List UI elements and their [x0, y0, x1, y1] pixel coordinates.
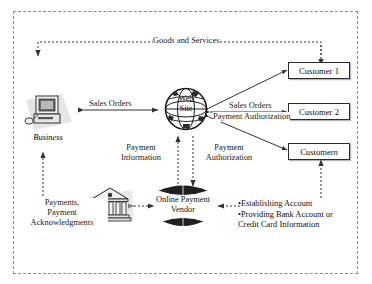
payments-line1: Payments, — [45, 198, 80, 207]
customer-box-1[interactable]: Customer 1 — [288, 62, 350, 79]
account-bullet-2: •Providing Bank Account or — [238, 210, 362, 221]
payment-authorization-line2: Authorization — [206, 153, 253, 162]
website-label-line2: Site — [179, 104, 192, 113]
label-goods-and-services: Goods and Services — [153, 36, 220, 46]
payments-line3: Acknowledgments — [31, 218, 94, 227]
payments-line2: Payment — [47, 208, 76, 217]
label-payment-authorization-customer: Payment Authorization — [213, 112, 290, 122]
opv-label-line1: Online Payment — [156, 195, 210, 204]
business-label: Business — [18, 133, 78, 142]
label-sales-orders-business: Sales Orders — [89, 99, 132, 109]
payment-information-line2: Information — [121, 153, 161, 162]
payment-information-line1: Payment — [126, 143, 155, 152]
customer-box-n[interactable]: Customer n — [288, 143, 350, 160]
customer-1-label: Customer 1 — [299, 66, 339, 76]
account-bullet-3: Credit Card Information — [238, 220, 362, 231]
website-label: Web Site — [163, 94, 209, 114]
opv-label-line2: Vendor — [171, 205, 195, 214]
customer-2-label: Customer 2 — [299, 107, 339, 117]
desktop-computer-icon — [22, 92, 74, 132]
label-sales-orders-customer: Sales Orders — [229, 101, 272, 111]
account-requirements-list: •Establishing Account •Providing Bank Ac… — [238, 199, 362, 231]
website-label-line1: Web — [178, 94, 193, 103]
customer-box-2[interactable]: Customer 2 — [288, 103, 350, 120]
customer-n-suffix: n — [334, 147, 338, 157]
customer-n-label: Customer — [300, 147, 333, 157]
online-payment-vendor-label: Online Payment Vendor — [143, 195, 223, 215]
diagram-canvas: Business Web Site — [0, 0, 372, 284]
account-bullet-1: •Establishing Account — [238, 199, 362, 210]
label-payments-acknowledgments: Payments, Payment Acknowledgments — [16, 198, 108, 228]
label-payment-information: Payment Information — [111, 143, 171, 163]
payment-authorization-line1: Payment — [214, 143, 243, 152]
label-payment-authorization: Payment Authorization — [196, 143, 262, 163]
